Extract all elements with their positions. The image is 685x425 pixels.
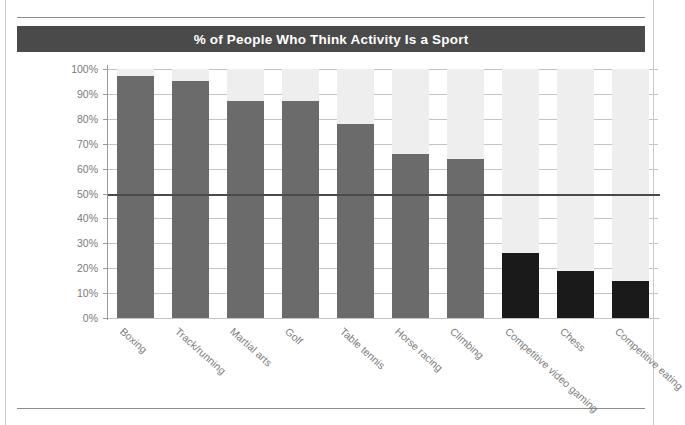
- chart-title-band: % of People Who Think Activity Is a Spor…: [17, 26, 645, 52]
- gridline: [108, 318, 658, 319]
- x-axis-tick-label: Competitive video gaming: [502, 325, 600, 415]
- y-axis-tick-label: 0%: [83, 312, 98, 324]
- x-axis-tick-label: Table tennis: [337, 325, 387, 371]
- x-axis-tick-label: Golf: [282, 325, 304, 347]
- bar: [557, 271, 594, 318]
- divider-bottom: [17, 408, 645, 409]
- divider-top: [17, 17, 645, 18]
- reference-line-50: [108, 194, 660, 196]
- x-axis-tick-label: Track/running: [172, 325, 227, 377]
- bar: [227, 101, 264, 318]
- y-axis-tick-label: 50%: [77, 188, 98, 200]
- y-axis-tick-label: 80%: [77, 113, 98, 125]
- y-axis-tick-label: 90%: [77, 88, 98, 100]
- y-axis-tick-label: 40%: [77, 212, 98, 224]
- x-axis-tick-label: Boxing: [117, 325, 149, 355]
- x-axis-labels: BoxingTrack/runningMartial artsGolfTable…: [108, 321, 668, 405]
- chart-area: 0%10%20%30%40%50%60%70%80%90%100% Boxing…: [0, 55, 671, 405]
- bar: [337, 124, 374, 318]
- bar: [282, 101, 319, 318]
- bar: [447, 159, 484, 318]
- bar: [392, 154, 429, 318]
- x-axis-tick-label: Chess: [557, 325, 587, 354]
- x-axis-tick-label: Martial arts: [227, 325, 274, 369]
- y-axis-labels: 0%10%20%30%40%50%60%70%80%90%100%: [58, 69, 104, 318]
- y-axis-tick-label: 20%: [77, 262, 98, 274]
- y-axis-tick-label: 30%: [77, 237, 98, 249]
- bar: [117, 76, 154, 318]
- plot-area: [108, 69, 658, 318]
- x-axis-tick-label: Competitive eating: [612, 325, 685, 392]
- x-axis-tick-label: Climbing: [447, 325, 485, 361]
- bar: [502, 253, 539, 318]
- bar: [612, 281, 649, 318]
- y-axis-tick-label: 10%: [77, 287, 98, 299]
- x-axis-tick-label: Horse racing: [392, 325, 444, 374]
- bar: [172, 81, 209, 318]
- y-axis-tick-label: 100%: [71, 63, 98, 75]
- y-axis-tick-label: 60%: [77, 163, 98, 175]
- chart-title: % of People Who Think Activity Is a Spor…: [194, 32, 469, 47]
- y-axis-tick-label: 70%: [77, 138, 98, 150]
